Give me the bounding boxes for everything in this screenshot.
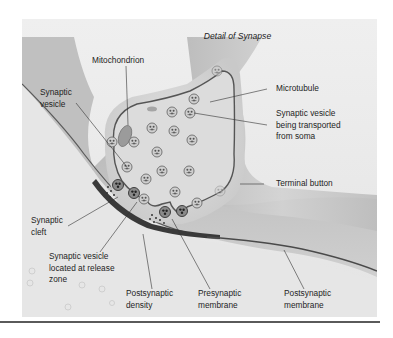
diagram-title: Detail of Synapse <box>22 31 377 41</box>
horizontal-rule <box>0 321 380 323</box>
label-vesicle-being-transported: Synaptic vesicle being transported from … <box>276 108 341 143</box>
label-postsynaptic-density: Postsynaptic density <box>126 288 173 311</box>
label-synaptic-cleft: Synaptic cleft <box>31 215 63 238</box>
label-presynaptic-membrane: Presynaptic membrane <box>198 288 241 311</box>
label-terminal-button: Terminal button <box>276 178 333 190</box>
label-microtubule: Microtubule <box>276 83 319 95</box>
label-postsynaptic-membrane: Postsynaptic membrane <box>284 288 331 311</box>
label-mitochondrion: Mitochondrion <box>92 55 144 67</box>
label-synaptic-vesicle: Synaptic vesicle <box>40 87 72 110</box>
label-vesicle-release-zone: Synaptic vesicle located at release zone <box>49 251 115 286</box>
synapse-diagram: Detail of Synapse Mitochondrion Synaptic… <box>22 19 377 317</box>
